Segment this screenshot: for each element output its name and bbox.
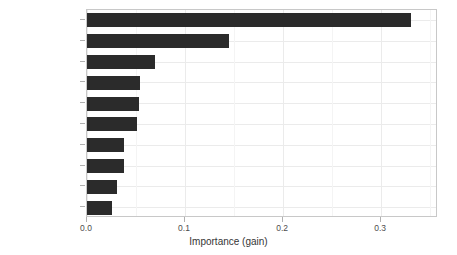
plot-panel (86, 9, 437, 217)
y-axis-tick-mark (80, 144, 85, 145)
bar (87, 138, 124, 152)
gridline-horizontal (87, 207, 436, 208)
y-axis-tick-mark (80, 206, 85, 207)
y-axis-tick-mark (80, 40, 85, 41)
gridline-horizontal (87, 166, 436, 167)
y-axis-tick-mark (80, 81, 85, 82)
x-axis-tick-mark (380, 217, 381, 222)
gridline-vertical-minor (430, 10, 431, 216)
x-axis-tick-label: 0.0 (66, 223, 106, 234)
y-axis-tick-mark (80, 185, 85, 186)
gridline-vertical-major (283, 10, 284, 216)
chart-container: Overall_QualGr_Liv_AreaTotal_Bsmt_SFYear… (0, 0, 457, 255)
x-axis-tick-label: 0.2 (262, 223, 302, 234)
y-axis: Overall_QualGr_Liv_AreaTotal_Bsmt_SFYear… (0, 0, 79, 255)
bar (87, 180, 117, 194)
bar (87, 97, 139, 111)
bar (87, 34, 229, 48)
x-axis-tick-mark (282, 217, 283, 222)
bar (87, 13, 411, 27)
y-axis-tick-mark (80, 165, 85, 166)
x-axis-tick-mark (184, 217, 185, 222)
gridline-horizontal (87, 186, 436, 187)
x-axis-tick-label: 0.1 (164, 223, 204, 234)
x-axis-title: Importance (gain) (0, 236, 457, 247)
y-axis-tick-mark (80, 123, 85, 124)
y-axis-tick-mark (80, 102, 85, 103)
y-axis-tick-mark (80, 61, 85, 62)
bar (87, 76, 140, 90)
bar (87, 201, 112, 215)
gridline-vertical-minor (234, 10, 235, 216)
x-axis-tick-label: 0.3 (360, 223, 400, 234)
bar (87, 55, 155, 69)
x-axis-tick-mark (86, 217, 87, 222)
gridline-horizontal (87, 145, 436, 146)
gridline-horizontal (87, 124, 436, 125)
bar (87, 117, 137, 131)
gridline-horizontal (87, 103, 436, 104)
gridline-vertical-minor (332, 10, 333, 216)
gridline-vertical-major (381, 10, 382, 216)
bar (87, 159, 124, 173)
y-axis-tick-mark (80, 19, 85, 20)
